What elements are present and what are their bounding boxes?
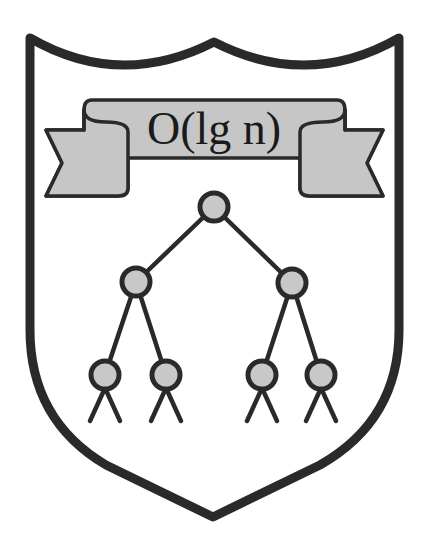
tree-node-right (278, 269, 306, 297)
tree-node-right-right (307, 361, 335, 389)
crest-diagram: O(lg n) (0, 0, 433, 550)
banner-left-curl (46, 110, 128, 196)
banner-right-curl (300, 110, 383, 196)
tree-node-root (200, 193, 228, 221)
leaf-stub (90, 388, 105, 421)
leaf-stub (247, 388, 262, 421)
leaf-stub (105, 388, 120, 421)
binary-tree (90, 193, 336, 421)
tree-node-left-right (152, 361, 180, 389)
banner: O(lg n) (46, 100, 383, 196)
leaf-stub (166, 388, 181, 421)
banner-motto: O(lg n) (147, 103, 281, 154)
tree-node-right-left (248, 361, 276, 389)
leaf-stub (321, 388, 336, 421)
leaf-stub (262, 388, 277, 421)
tree-node-left-left (91, 361, 119, 389)
leaf-stub (151, 388, 166, 421)
leaf-stub (306, 388, 321, 421)
tree-node-left (122, 268, 150, 296)
